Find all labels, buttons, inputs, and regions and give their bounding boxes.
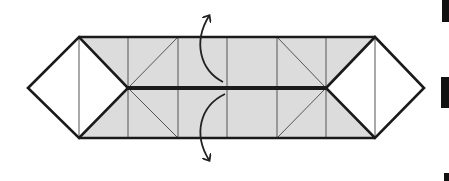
edge-mark-middle bbox=[441, 77, 449, 108]
edge-mark-top bbox=[442, 0, 449, 22]
edge-mark-bottom bbox=[444, 173, 449, 181]
origami-diagram bbox=[0, 0, 449, 181]
